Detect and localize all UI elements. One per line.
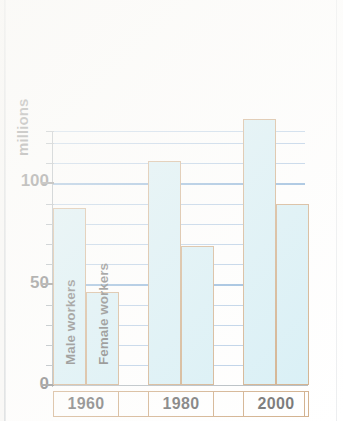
bar-2000-male[interactable] (243, 119, 276, 385)
bar-1980-male[interactable] (148, 161, 181, 385)
plot-area: Male workers Female workers (53, 131, 305, 385)
x-category-2000-label: 2000 (244, 392, 308, 416)
y-axis-tick-labels: 100 50 0 (0, 0, 49, 421)
bar-2000-female[interactable] (276, 204, 309, 385)
bar-label-male-workers: Male workers (62, 279, 77, 365)
y-tick-label-100: 100 (0, 172, 49, 189)
x-category-1980-label: 1980 (149, 392, 213, 416)
x-category-1960-label: 1960 (54, 392, 118, 416)
y-tickmark-100 (41, 182, 54, 184)
bar-label-female-workers: Female workers (95, 263, 110, 365)
x-category-1960[interactable]: 1960 (53, 391, 119, 417)
x-axis-baseline (46, 385, 308, 386)
y-tickmark-120 (46, 143, 54, 144)
y-tickmark-110 (46, 163, 54, 164)
y-tickmark-126 (46, 131, 54, 132)
bar-1980-female[interactable] (181, 246, 214, 385)
x-category-1980[interactable]: 1980 (148, 391, 214, 417)
bar-1960-female[interactable]: Female workers (86, 292, 119, 385)
y-tickmark-90 (46, 204, 54, 205)
bar-chart-figure: millions 100 50 0 (0, 0, 343, 421)
bar-1960-male[interactable]: Male workers (53, 208, 86, 385)
x-axis-categories: 1960 1980 2000 (53, 391, 305, 417)
x-category-2000[interactable]: 2000 (243, 391, 309, 417)
